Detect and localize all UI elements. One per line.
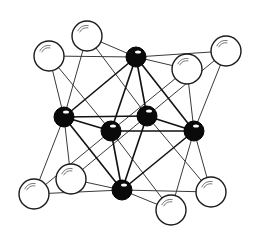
octahedral-cluster-figure	[0, 0, 263, 244]
white-atom-bl_front	[19, 179, 49, 209]
white-atom-br_front	[156, 195, 186, 225]
white-atom-tr_back	[211, 36, 241, 66]
cluster-diagram	[0, 0, 263, 244]
edge-left-back	[64, 116, 147, 117]
white-atom-tr_front	[172, 54, 202, 84]
white-atom-tl_back	[72, 21, 102, 51]
black-atom-top	[126, 47, 146, 67]
white-atom-br_back	[196, 177, 226, 207]
black-atom-front	[101, 121, 121, 141]
black-atom-back	[137, 106, 157, 126]
white-atom-tl_front	[34, 41, 64, 71]
black-atom-bottom	[112, 180, 132, 200]
black-atom-right	[184, 121, 204, 141]
white-atom-bl_back	[56, 164, 86, 194]
black-atom-left	[54, 107, 74, 127]
